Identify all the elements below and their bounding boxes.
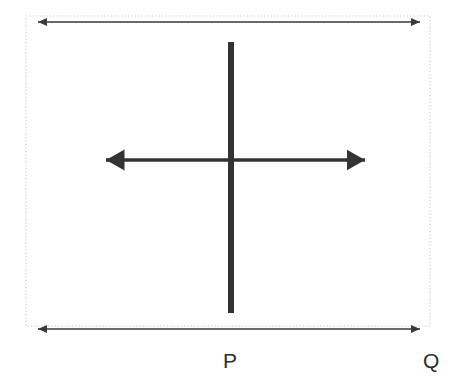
label-p: P [223,350,237,371]
label-q: Q [423,350,439,371]
figure-container: P Q [0,0,453,388]
diagram-canvas [0,0,453,388]
